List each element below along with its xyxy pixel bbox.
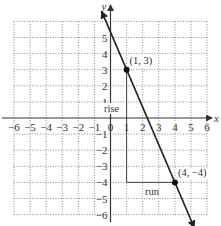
point-label: (4, −4) bbox=[178, 167, 207, 179]
x-tick-label: 1 bbox=[124, 121, 130, 133]
y-tick-label: −2 bbox=[96, 144, 108, 156]
x-tick-label: −3 bbox=[56, 121, 68, 133]
x-tick-label: 6 bbox=[204, 121, 210, 133]
x-tick-label: 2 bbox=[140, 121, 146, 133]
run-label: run bbox=[145, 186, 160, 197]
coordinate-plane: xy −6−5−4−3−2−1012345612345−1−2−3−4−5−6 … bbox=[0, 0, 221, 226]
y-tick-label: −1 bbox=[96, 128, 108, 140]
tick-labels: −6−5−4−3−2−1012345612345−1−2−3−4−5−6 bbox=[8, 32, 210, 221]
x-tick-label: 4 bbox=[172, 121, 178, 133]
y-tick-label: 2 bbox=[102, 80, 108, 92]
y-tick-label: 5 bbox=[102, 32, 108, 44]
x-tick-label: −6 bbox=[8, 121, 20, 133]
rise-label: rise bbox=[104, 103, 120, 114]
x-tick-label: −5 bbox=[24, 121, 36, 133]
y-tick-label: −3 bbox=[96, 160, 108, 172]
x-axis-label: x bbox=[213, 112, 219, 124]
x-tick-label: −4 bbox=[40, 121, 52, 133]
y-tick-label: 3 bbox=[102, 64, 108, 76]
x-tick-label: 0 bbox=[108, 121, 114, 133]
x-tick-label: 5 bbox=[188, 121, 194, 133]
y-tick-label: −5 bbox=[96, 193, 108, 205]
y-tick-label: −4 bbox=[96, 176, 108, 188]
y-tick-label: 4 bbox=[102, 48, 108, 60]
point-label: (1, 3) bbox=[130, 55, 153, 67]
data-point bbox=[124, 67, 130, 73]
x-tick-label: 3 bbox=[156, 121, 162, 133]
y-tick-label: −6 bbox=[96, 209, 108, 221]
data-point bbox=[172, 179, 178, 185]
y-axis-label: y bbox=[101, 0, 107, 12]
x-tick-label: −2 bbox=[72, 121, 84, 133]
